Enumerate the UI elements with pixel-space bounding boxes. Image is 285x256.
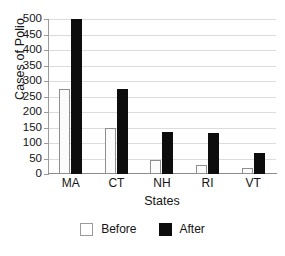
y-tick-mark: [44, 97, 49, 98]
bar-group: [48, 19, 94, 174]
bar-ct-after: [117, 89, 128, 174]
bar-ma-after: [71, 19, 82, 174]
bar-series-container: [48, 19, 276, 174]
x-tick-label-ma: MA: [48, 176, 94, 190]
y-tick-mark: [44, 50, 49, 51]
bar-vt-after: [254, 153, 265, 174]
y-tick-mark: [44, 174, 49, 175]
legend-item-after[interactable]: After: [159, 222, 205, 236]
y-tick-label: 0: [0, 168, 42, 180]
x-tick-label-vt: VT: [230, 176, 276, 190]
y-tick-label: 350: [0, 60, 42, 72]
y-tick-label: 450: [0, 29, 42, 41]
bar-chart: Cases of Polio 0501001502002503003504004…: [0, 0, 285, 256]
y-tick-mark: [44, 81, 49, 82]
y-tick-mark: [44, 159, 49, 160]
y-tick-label: 50: [0, 153, 42, 165]
y-tick-mark: [44, 128, 49, 129]
x-axis-tick-labels: MACTNHRIVT: [48, 176, 276, 192]
filled-square-swatch: [159, 223, 172, 236]
y-tick-mark: [44, 112, 49, 113]
legend-label: After: [180, 222, 205, 236]
y-tick-label: 300: [0, 75, 42, 87]
y-tick-label: 400: [0, 44, 42, 56]
x-tick-label-ct: CT: [94, 176, 140, 190]
chart-legend: BeforeAfter: [0, 222, 285, 236]
y-axis-tick-labels: 050100150200250300350400450500: [0, 0, 42, 190]
bar-ma-before: [59, 89, 70, 174]
bar-ri-before: [196, 165, 207, 174]
bar-ct-before: [105, 128, 116, 175]
y-tick-mark: [44, 35, 49, 36]
bar-group: [185, 19, 231, 174]
y-tick-label: 250: [0, 91, 42, 103]
bar-ri-after: [208, 133, 219, 174]
legend-label: Before: [101, 222, 136, 236]
x-axis-title: States: [48, 194, 276, 208]
y-tick-label: 100: [0, 137, 42, 149]
bar-nh-after: [162, 132, 173, 174]
y-tick-label: 200: [0, 106, 42, 118]
bar-nh-before: [150, 160, 161, 174]
bar-group: [94, 19, 140, 174]
y-tick-mark: [44, 19, 49, 20]
legend-item-before[interactable]: Before: [80, 222, 136, 236]
x-tick-label-ri: RI: [185, 176, 231, 190]
bar-group: [230, 19, 276, 174]
x-tick-label-nh: NH: [139, 176, 185, 190]
y-tick-label: 150: [0, 122, 42, 134]
bar-vt-before: [242, 168, 253, 174]
open-square-swatch: [80, 223, 93, 236]
y-tick-label: 500: [0, 13, 42, 25]
y-tick-mark: [44, 66, 49, 67]
bar-group: [139, 19, 185, 174]
y-tick-mark: [44, 143, 49, 144]
